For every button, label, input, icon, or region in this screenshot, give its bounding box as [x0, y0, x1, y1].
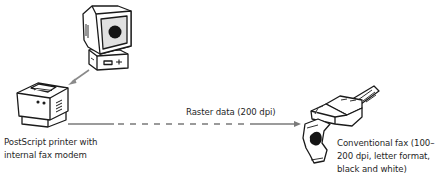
fax-label-line-3: black and white) [337, 163, 434, 176]
fax-label-line-2: 200 dpi, letter format, [337, 150, 434, 163]
computer-monitor-icon [83, 6, 131, 70]
printer-label-line-2: internal fax modem [4, 149, 97, 162]
arrow-computer-to-printer [68, 70, 89, 85]
edge-label-raster-data: Raster data (200 dpi) [186, 106, 276, 119]
printer-label-line-1: PostScript printer with [4, 136, 97, 149]
postscript-printer-icon [17, 83, 68, 127]
fax-label-line-1: Conventional fax (100– [337, 137, 434, 150]
arrow-printer-to-fax [68, 121, 301, 127]
fax-label: Conventional fax (100– 200 dpi, letter f… [337, 137, 434, 176]
printer-label: PostScript printer with internal fax mod… [4, 136, 97, 162]
